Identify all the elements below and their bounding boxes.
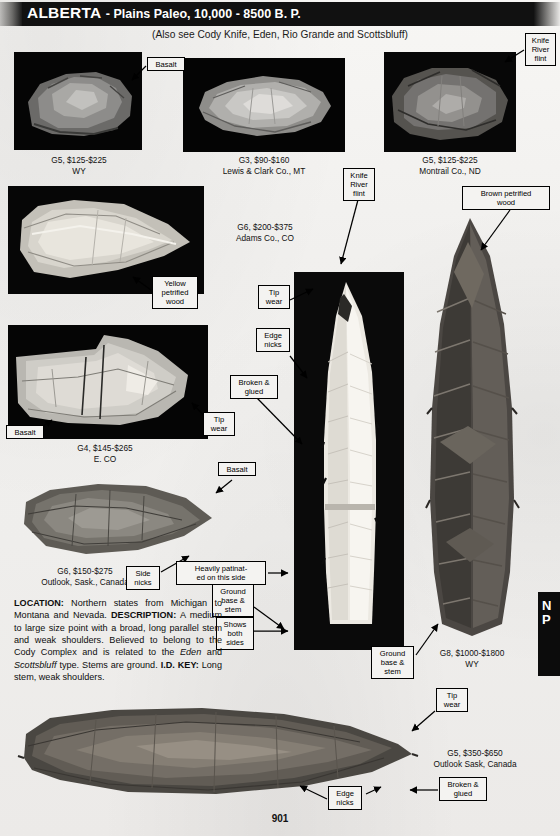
- specimen-grade-price: G5, $125-$225: [22, 155, 136, 166]
- location-key: LOCATION:: [14, 598, 64, 608]
- specimen-photo-8-right: [410, 212, 536, 644]
- page-header-text: ALBERTA - Plains Paleo, 10,000 - 8500 B.…: [27, 4, 301, 22]
- specimen-grade-price: G6, $200-$375: [210, 222, 320, 233]
- description-italic-scottsbluff: Scottsbluff: [14, 660, 56, 670]
- label-ground-base-stem-right: Groundbase &stem: [371, 646, 414, 679]
- idkey-key: I.D. KEY:: [161, 660, 199, 670]
- specimen-grade-price: G4, $145-$265: [40, 443, 170, 454]
- specimen-photo-6: [14, 476, 220, 562]
- specimen-caption-8: G5, $350-$650 Outlook Sask, Canada: [400, 748, 550, 770]
- label-yellow-petrified-wood: Yellowpetrifiedwood: [152, 276, 198, 309]
- label-edge-nicks-center: Edgenicks: [256, 328, 290, 352]
- specimen-caption-1: G5, $125-$225 WY: [22, 155, 136, 177]
- specimen-photo-3: [384, 52, 516, 152]
- label-tip-wear-left: Tipwear: [203, 412, 235, 436]
- label-brown-petrified-wood: Brown petrifiedwood: [462, 186, 550, 210]
- label-tip-wear-bottom: Tipwear: [436, 688, 468, 712]
- label-basalt-mid-left: Basalt: [6, 425, 44, 439]
- specimen-provenance: Outlook Sask, Canada: [400, 759, 550, 770]
- label-heavily-patinated: Heavily patinat-ed on this side: [176, 561, 266, 585]
- specimen-caption-3: G5, $125-$225 Montrail Co., ND: [386, 155, 514, 177]
- specimen-caption-5: G4, $145-$265 E. CO: [40, 443, 170, 465]
- specimen-photo-2: [183, 58, 345, 152]
- reference-page: ALBERTA - Plains Paleo, 10,000 - 8500 B.…: [0, 0, 560, 836]
- specimen-provenance: Lewis & Clark Co., MT: [184, 166, 344, 177]
- section-tab-line-2: P: [542, 613, 560, 627]
- label-broken-glued-bottom: Broken &glued: [439, 777, 487, 801]
- specimen-grade-price: G5, $125-$225: [386, 155, 514, 166]
- section-tab-line-1: N: [542, 599, 560, 613]
- label-basalt-top: Basalt: [147, 57, 185, 71]
- specimen-grade-price: G8, $1000-$1800: [406, 648, 538, 659]
- specimen-provenance: Montrail Co., ND: [386, 166, 514, 177]
- description-italic-eden: Eden: [180, 647, 201, 657]
- description-text-c: type. Stems are ground.: [56, 660, 157, 670]
- specimen-caption-7: G8, $1000-$1800 WY: [406, 648, 538, 670]
- description-block: LOCATION: Northern states from Michigan …: [14, 597, 222, 684]
- also-see-note: (Also see Cody Knife, Eden, Rio Grande a…: [0, 29, 560, 40]
- page-subtitle: - Plains Paleo, 10,000 - 8500 B. P.: [106, 7, 301, 21]
- label-knife-river-flint-center: KnifeRiverflint: [343, 168, 375, 201]
- specimen-caption-2: G3, $90-$160 Lewis & Clark Co., MT: [184, 155, 344, 177]
- description-key: DESCRIPTION:: [111, 610, 176, 620]
- label-side-nicks: Sidenicks: [126, 566, 160, 590]
- description-text-b: and: [201, 647, 222, 657]
- label-knife-river-flint-topright: KnifeRiverflint: [525, 33, 556, 66]
- specimen-provenance: Adams Co., CO: [210, 233, 320, 244]
- specimen-caption-4: G6, $200-$375 Adams Co., CO: [210, 222, 320, 244]
- label-basalt-mid: Basalt: [218, 462, 256, 476]
- specimen-photo-7-center: [294, 272, 404, 650]
- specimen-grade-price: G5, $350-$650: [400, 748, 550, 759]
- specimen-provenance: WY: [406, 659, 538, 670]
- label-tip-wear-center: Tipwear: [258, 285, 290, 309]
- specimen-photo-5: [8, 325, 208, 439]
- section-edge-tab: N P: [538, 592, 560, 676]
- label-edge-nicks-bottom: Edgenicks: [328, 786, 362, 810]
- specimen-grade-price: G3, $90-$160: [184, 155, 344, 166]
- label-broken-glued-center: Broken &glued: [230, 375, 278, 399]
- page-number: 901: [0, 813, 560, 824]
- specimen-provenance: WY: [22, 166, 136, 177]
- specimen-photo-1: [14, 52, 142, 150]
- specimen-provenance: E. CO: [40, 454, 170, 465]
- page-title: ALBERTA: [27, 4, 101, 21]
